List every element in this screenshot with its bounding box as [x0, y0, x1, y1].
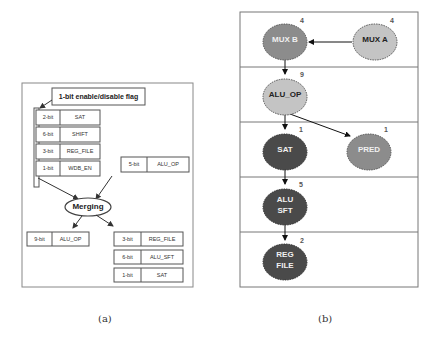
caption-b: (b) [318, 313, 332, 324]
node-label-line2: SFT [263, 206, 307, 215]
node-label: MUX B [263, 35, 307, 44]
node-weight: 4 [300, 17, 304, 24]
node-label: ALU [263, 195, 307, 204]
node-weight: 4 [390, 17, 394, 24]
node-label: SAT [263, 145, 307, 154]
node-label-line2: FILE [263, 261, 307, 270]
node-label: PRED [347, 145, 391, 154]
node-label: REG [263, 250, 307, 259]
node-weight: 5 [299, 181, 303, 188]
node-weight: 2 [300, 237, 304, 244]
node-label: ALU_OP [263, 90, 307, 99]
node-label: MUX A [353, 35, 397, 44]
panel-b-graphics [0, 0, 430, 341]
node-weight: 1 [299, 126, 303, 133]
node-weight: 1 [384, 126, 388, 133]
node-weight: 9 [300, 71, 304, 78]
